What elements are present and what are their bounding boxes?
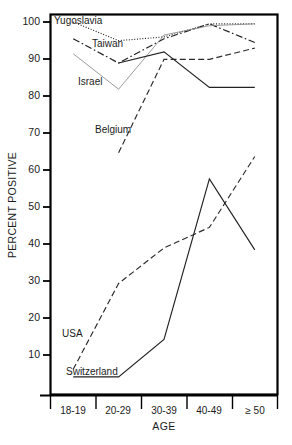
series-line-israel-lower bbox=[119, 52, 255, 87]
series-label-yugoslavia: Yugoslavia bbox=[54, 15, 103, 26]
y-tick-label: 40 bbox=[28, 237, 40, 249]
x-tick-label: 18-19 bbox=[60, 405, 86, 416]
x-tick-label: 40-49 bbox=[196, 405, 222, 416]
series-label-switzerland: Switzerland bbox=[66, 366, 118, 377]
x-tick-label: ≥ 50 bbox=[245, 405, 265, 416]
series-label-taiwan: Taiwan bbox=[92, 38, 123, 49]
series-label-israel: Israel bbox=[78, 76, 102, 87]
y-tick-label: 20 bbox=[28, 311, 40, 323]
figure-container: 100 90 80 70 60 50 40 30 20 10 PERCENT P… bbox=[0, 0, 292, 445]
y-tick-label: 60 bbox=[28, 163, 40, 175]
y-tick-label: 50 bbox=[28, 200, 40, 212]
series-label-usa: USA bbox=[62, 328, 83, 339]
y-tick-label: 90 bbox=[28, 52, 40, 64]
series-label-belgium: Belgium bbox=[95, 124, 131, 135]
series-line-switzerland bbox=[73, 179, 255, 377]
y-axis-ticks bbox=[43, 22, 50, 355]
y-tick-label: 80 bbox=[28, 89, 40, 101]
y-tick-label: 70 bbox=[28, 126, 40, 138]
series-line-belgium bbox=[119, 48, 255, 153]
y-tick-label: 10 bbox=[28, 348, 40, 360]
x-axis-title: AGE bbox=[152, 420, 175, 432]
x-tick-label: 30-39 bbox=[151, 405, 177, 416]
x-tick-label: 20-29 bbox=[105, 405, 131, 416]
y-tick-label: 30 bbox=[28, 274, 40, 286]
y-tick-label: 100 bbox=[22, 15, 40, 27]
x-axis-labels: 18-19 20-29 30-39 40-49 ≥ 50 bbox=[60, 405, 265, 416]
y-axis-title: PERCENT POSITIVE bbox=[6, 152, 18, 258]
line-chart: 100 90 80 70 60 50 40 30 20 10 PERCENT P… bbox=[0, 0, 292, 445]
y-axis-labels: 100 90 80 70 60 50 40 30 20 10 bbox=[22, 15, 40, 360]
